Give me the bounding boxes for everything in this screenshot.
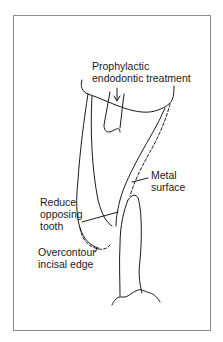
upper-tooth-inner-outline — [91, 96, 112, 226]
lower-gum-line — [112, 290, 160, 305]
label-line: Prophylactic — [92, 60, 149, 72]
label-surface: surface — [151, 181, 185, 193]
endo-line-left — [104, 92, 120, 132]
upper-tooth-labial-outline — [77, 94, 98, 248]
endo-arrow-icon — [114, 88, 120, 101]
tooth-diagram — [0, 0, 223, 342]
label-opposing: opposing — [40, 208, 83, 220]
upper-gum-line — [81, 80, 174, 112]
metal-leader-line — [132, 178, 148, 182]
lower-tooth-labial-outline — [120, 200, 128, 296]
label-overcontour: Overcontour — [38, 246, 96, 258]
reduce-leader-line — [82, 212, 118, 222]
label-metal: Metal — [151, 169, 177, 181]
label-tooth: tooth — [40, 220, 63, 232]
endo-line-right — [120, 94, 124, 128]
label-incisal-edge: incisal edge — [38, 258, 93, 270]
label-reduce: Reduce — [40, 196, 76, 208]
lower-tooth-outline — [128, 195, 142, 293]
label-endodontic: endodontic treatment — [92, 72, 191, 84]
label-prophylactic: Prophylactic — [92, 60, 149, 72]
